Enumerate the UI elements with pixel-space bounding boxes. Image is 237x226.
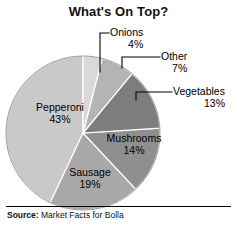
slice-label-pepperoni-name: Pepperoni: [36, 101, 84, 113]
callout-other: Other 7%: [161, 51, 187, 74]
source-text: Market Facts for Bolla: [39, 210, 124, 220]
slice-label-pepperoni-value: 43%: [16, 114, 104, 126]
callout-vegetables: Vegetables 13%: [173, 86, 225, 109]
pie-chart-figure: What's On Top? On: [0, 0, 237, 226]
callout-onions-value: 4%: [110, 39, 143, 51]
slice-label-mushrooms-value: 14%: [94, 145, 174, 157]
source-divider: [6, 206, 231, 207]
callout-onions: Onions 4%: [110, 27, 143, 50]
slice-label-sausage-value: 19%: [54, 179, 126, 191]
source-note: Source: Market Facts for Bolla: [7, 210, 124, 220]
leader-line-other: [122, 57, 160, 68]
slice-label-mushrooms: Mushrooms 14%: [94, 133, 174, 156]
slice-label-mushrooms-name: Mushrooms: [107, 132, 162, 144]
slice-label-sausage-name: Sausage: [69, 166, 110, 178]
callout-vegetables-value: 13%: [173, 98, 225, 110]
slice-label-pepperoni: Pepperoni 43%: [16, 102, 104, 125]
callout-other-label: Other: [161, 50, 187, 62]
callout-other-value: 7%: [161, 63, 187, 75]
callout-onions-label: Onions: [110, 26, 143, 38]
slice-label-sausage: Sausage 19%: [54, 167, 126, 190]
callout-vegetables-label: Vegetables: [173, 85, 225, 97]
source-label: Source:: [7, 210, 39, 220]
